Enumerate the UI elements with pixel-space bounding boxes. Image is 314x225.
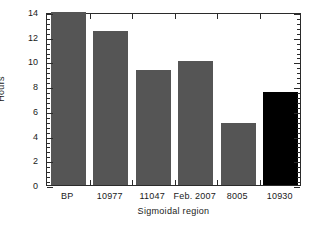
- y-axis-minor-tick: [297, 78, 300, 79]
- x-axis-tick: [260, 180, 261, 185]
- y-axis-minor-tick: [47, 172, 50, 173]
- y-axis-minor-tick: [297, 182, 300, 183]
- y-axis-tick: [47, 187, 53, 188]
- y-axis-minor-tick: [297, 157, 300, 158]
- y-axis-minor-tick: [297, 167, 300, 168]
- y-axis-minor-tick: [297, 49, 300, 50]
- chart-title: [0, 0, 314, 2]
- y-axis-minor-tick: [47, 29, 50, 30]
- y-axis-minor-tick: [47, 157, 50, 158]
- y-axis-tick-label: 6: [33, 108, 38, 117]
- y-axis-minor-tick: [47, 147, 50, 148]
- y-axis-minor-tick: [47, 103, 50, 104]
- y-axis-minor-tick: [297, 29, 300, 30]
- y-axis-tick: [47, 88, 53, 89]
- x-axis-tick: [90, 180, 91, 185]
- y-axis-minor-tick: [297, 118, 300, 119]
- chart-figure: Hours 02468101214 BP1097711047Feb. 20078…: [0, 0, 314, 225]
- y-axis-minor-tick: [47, 93, 50, 94]
- y-axis-tick: [47, 113, 53, 114]
- y-axis-minor-tick: [47, 24, 50, 25]
- y-axis-minor-tick: [47, 108, 50, 109]
- y-axis-tick-label: 12: [28, 34, 38, 43]
- y-axis-tick-label: 14: [28, 9, 38, 18]
- y-axis-minor-tick: [47, 44, 50, 45]
- y-axis-minor-tick: [297, 34, 300, 35]
- y-axis-tick-label: 0: [33, 182, 38, 191]
- y-axis-minor-tick: [297, 19, 300, 20]
- x-axis-tick-label: 8005: [216, 191, 259, 201]
- y-axis-minor-tick: [297, 123, 300, 124]
- y-axis-tick: [47, 14, 53, 15]
- y-axis-tick: [294, 162, 300, 163]
- x-axis-tick: [90, 14, 91, 19]
- y-axis-tick-label: 4: [33, 133, 38, 142]
- y-axis-minor-tick: [47, 73, 50, 74]
- y-axis-minor-tick: [297, 68, 300, 69]
- x-axis-tick: [132, 14, 133, 19]
- x-axis-tick-labels: BP1097711047Feb. 2007800510930: [46, 191, 301, 203]
- y-axis-tick: [47, 63, 53, 64]
- y-axis-minor-tick: [297, 108, 300, 109]
- y-axis-minor-tick: [297, 73, 300, 74]
- y-axis-minor-tick: [297, 128, 300, 129]
- x-axis-tick: [175, 180, 176, 185]
- x-axis-tick: [217, 14, 218, 19]
- y-axis-minor-tick: [297, 143, 300, 144]
- y-axis-minor-tick: [47, 167, 50, 168]
- y-axis-minor-tick: [297, 172, 300, 173]
- y-axis-minor-tick: [297, 147, 300, 148]
- y-axis-minor-tick: [47, 98, 50, 99]
- plot-frame: [46, 13, 301, 186]
- y-axis-minor-tick: [297, 152, 300, 153]
- y-axis-minor-tick: [47, 54, 50, 55]
- y-axis-tick: [294, 138, 300, 139]
- y-axis-minor-tick: [47, 58, 50, 59]
- x-axis-title: Sigmoidal region: [46, 206, 301, 216]
- y-axis-tick-label: 8: [33, 83, 38, 92]
- y-axis-tick: [294, 14, 300, 15]
- y-axis-tick: [294, 63, 300, 64]
- x-axis-tick: [132, 180, 133, 185]
- y-axis-tick: [294, 39, 300, 40]
- y-axis-minor-tick: [47, 123, 50, 124]
- y-axis-minor-tick: [47, 49, 50, 50]
- y-axis-tick-labels: 02468101214: [0, 13, 42, 186]
- y-axis-minor-tick: [47, 133, 50, 134]
- y-axis-minor-tick: [47, 68, 50, 69]
- y-axis-minor-tick: [47, 118, 50, 119]
- y-axis-minor-tick: [47, 83, 50, 84]
- y-axis-minor-tick: [47, 19, 50, 20]
- x-axis-tick-label: 10977: [89, 191, 132, 201]
- y-axis-ticks: [47, 14, 300, 185]
- y-axis-tick: [47, 39, 53, 40]
- y-axis-minor-tick: [297, 103, 300, 104]
- y-axis-tick-label: 2: [33, 157, 38, 166]
- y-axis-minor-tick: [297, 83, 300, 84]
- y-axis-minor-tick: [47, 182, 50, 183]
- x-axis-tick-label: BP: [46, 191, 89, 201]
- y-axis-minor-tick: [297, 133, 300, 134]
- x-axis-tick: [217, 180, 218, 185]
- y-axis-minor-tick: [297, 98, 300, 99]
- y-axis-minor-tick: [47, 128, 50, 129]
- y-axis-minor-tick: [297, 93, 300, 94]
- y-axis-minor-tick: [47, 143, 50, 144]
- x-axis-tick-label: 11047: [131, 191, 174, 201]
- y-axis-tick: [294, 88, 300, 89]
- x-axis-tick: [175, 14, 176, 19]
- y-axis-minor-tick: [297, 44, 300, 45]
- y-axis-tick: [294, 113, 300, 114]
- y-axis-minor-tick: [47, 34, 50, 35]
- y-axis-minor-tick: [297, 58, 300, 59]
- x-axis-tick-label: Feb. 2007: [174, 191, 217, 201]
- y-axis-tick-label: 10: [28, 58, 38, 67]
- y-axis-tick: [294, 187, 300, 188]
- y-axis-minor-tick: [297, 177, 300, 178]
- y-axis-minor-tick: [297, 24, 300, 25]
- y-axis-minor-tick: [47, 177, 50, 178]
- y-axis-minor-tick: [47, 78, 50, 79]
- y-axis-minor-tick: [297, 54, 300, 55]
- y-axis-tick: [47, 162, 53, 163]
- x-axis-tick: [260, 14, 261, 19]
